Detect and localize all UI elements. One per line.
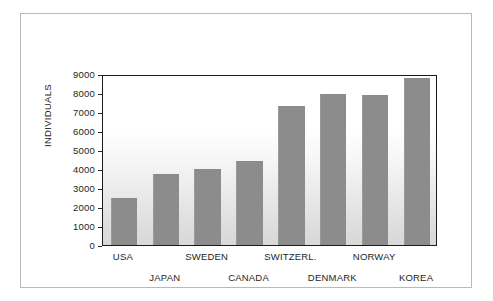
bar (111, 198, 137, 246)
bar (194, 169, 220, 245)
bar (320, 94, 346, 245)
y-tick-label: 4000 (73, 163, 95, 176)
x-axis-label: CANADA (228, 272, 269, 283)
bar (362, 95, 388, 245)
x-axis-label: USA (113, 251, 133, 262)
x-axis-label: KOREA (399, 272, 433, 283)
y-axis: 9000800070006000500040003000200010000 (21, 75, 102, 246)
y-tick-label: 0 (90, 239, 95, 252)
bar (236, 161, 262, 245)
y-tick-label: 7000 (73, 106, 95, 119)
bar (153, 174, 179, 245)
y-tick-label: 2000 (73, 201, 95, 214)
x-axis-label: NORWAY (353, 251, 396, 262)
y-tick-label: 8000 (73, 87, 95, 100)
plot-area (102, 75, 437, 246)
bar (404, 78, 430, 245)
bar (278, 106, 304, 245)
bar-series (103, 76, 436, 245)
x-axis-label: SWEDEN (185, 251, 228, 262)
x-axis-labels: USAJAPANSWEDENCANADASWITZERL.DENMARKNORW… (102, 246, 437, 294)
y-tick-label: 3000 (73, 182, 95, 195)
x-axis-label: SWITZERL. (264, 251, 316, 262)
x-axis-label: DENMARK (308, 272, 357, 283)
y-tick-label: 5000 (73, 144, 95, 157)
y-tick-label: 1000 (73, 220, 95, 233)
figure-frame: INDIVIDUALS 9000800070006000500040003000… (20, 13, 472, 288)
x-axis-label: JAPAN (149, 272, 180, 283)
y-tick-label: 6000 (73, 125, 95, 138)
figure: INDIVIDUALS 9000800070006000500040003000… (0, 0, 493, 301)
y-tick-label: 9000 (73, 68, 95, 81)
